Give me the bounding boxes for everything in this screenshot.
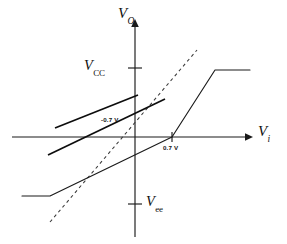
figure-canvas xyxy=(0,0,287,244)
vcc-label: VCC xyxy=(84,58,105,76)
vee-label-main: V xyxy=(146,193,155,209)
x-axis-label: Vi xyxy=(258,124,270,143)
x-axis-label-main: V xyxy=(258,123,267,139)
main-transfer-curve-group xyxy=(22,70,250,196)
main-transfer-curve xyxy=(22,70,250,196)
positive-offset-label: 0.7 V xyxy=(163,145,178,151)
slope-segments-group xyxy=(48,95,165,155)
upper-slope-segment xyxy=(55,95,138,128)
x-axis-label-sub: i xyxy=(268,134,271,144)
vcc-label-main: V xyxy=(84,57,93,73)
vee-label: Vee xyxy=(146,194,163,212)
vcc-label-sub: CC xyxy=(93,68,105,78)
x-axis-arrowhead xyxy=(245,133,253,141)
negative-offset-label: -0.7 V xyxy=(101,117,118,123)
y-axis-label-sub: O xyxy=(128,16,135,26)
ideal-reference-line xyxy=(50,50,197,222)
ideal-reference-line-group xyxy=(50,50,197,222)
y-axis-label-main: V xyxy=(118,5,127,21)
transfer-characteristic-figure: VO Vi VCC Vee -0.7 V 0.7 V xyxy=(0,0,287,244)
y-axis-label: VO xyxy=(118,6,134,25)
vee-label-sub: ee xyxy=(155,204,163,214)
